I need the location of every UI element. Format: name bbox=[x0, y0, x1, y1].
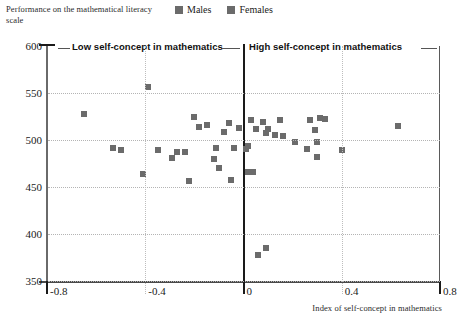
data-point bbox=[277, 117, 283, 123]
x-tick-label: 0.8 bbox=[443, 285, 457, 297]
data-point bbox=[272, 132, 278, 138]
data-point bbox=[110, 145, 116, 151]
x-axis-title: Index of self-concept in mathematics bbox=[312, 303, 442, 313]
data-point bbox=[236, 125, 242, 131]
data-point bbox=[155, 147, 161, 153]
legend-label-males: Males bbox=[187, 4, 211, 15]
x-gridline bbox=[342, 46, 343, 294]
data-point bbox=[216, 165, 222, 171]
data-point bbox=[263, 130, 269, 136]
data-point bbox=[248, 117, 254, 123]
y-gridline bbox=[48, 187, 440, 188]
y-gridline bbox=[48, 281, 440, 282]
data-point bbox=[81, 111, 87, 117]
square-marker-icon bbox=[175, 6, 183, 14]
data-point bbox=[307, 117, 313, 123]
plot-right-border bbox=[439, 46, 440, 281]
data-point bbox=[196, 124, 202, 130]
y-tick-label: 500 bbox=[26, 134, 47, 146]
data-point bbox=[231, 145, 237, 151]
data-point bbox=[280, 133, 286, 139]
plot-top-border bbox=[47, 46, 440, 47]
data-point bbox=[263, 245, 269, 251]
plot-area bbox=[47, 46, 440, 281]
y-gridline bbox=[48, 140, 440, 141]
y-gridline bbox=[48, 93, 440, 94]
data-point bbox=[186, 178, 192, 184]
x-tick-label: 0 bbox=[247, 285, 253, 297]
legend-item-males: Males bbox=[175, 4, 211, 15]
legend-label-females: Females bbox=[239, 4, 272, 15]
data-point bbox=[260, 119, 266, 125]
data-point bbox=[304, 146, 310, 152]
x-gridline bbox=[145, 46, 146, 294]
data-point bbox=[118, 147, 124, 153]
y-tick-label: 600 bbox=[26, 40, 47, 52]
x-tick-label: -0.4 bbox=[148, 285, 165, 297]
y-tick-label: 550 bbox=[26, 87, 47, 99]
data-point bbox=[322, 116, 328, 122]
data-point bbox=[314, 154, 320, 160]
x-axis-right-tick bbox=[439, 281, 441, 294]
x-axis-left-tick bbox=[46, 281, 48, 294]
data-point bbox=[191, 114, 197, 120]
legend-item-females: Females bbox=[227, 4, 272, 15]
x-tick-label: -0.8 bbox=[50, 285, 67, 297]
y-axis-caption: Performance on the mathematical literacy… bbox=[6, 4, 156, 25]
data-point bbox=[228, 177, 234, 183]
data-point bbox=[221, 129, 227, 135]
y-tick-label: 350 bbox=[26, 275, 47, 287]
data-point bbox=[226, 120, 232, 126]
data-point bbox=[169, 155, 175, 161]
data-point bbox=[204, 122, 210, 128]
x-axis-zero-tick bbox=[243, 281, 245, 294]
x-tick-label: 0.4 bbox=[345, 285, 359, 297]
data-point bbox=[253, 126, 259, 132]
data-point bbox=[211, 156, 217, 162]
data-point bbox=[255, 252, 261, 258]
data-point bbox=[213, 145, 219, 151]
data-point bbox=[312, 127, 318, 133]
data-point bbox=[182, 149, 188, 155]
legend: Males Females bbox=[175, 4, 273, 15]
data-point bbox=[250, 169, 256, 175]
y-gridline bbox=[48, 234, 440, 235]
y-tick-label: 400 bbox=[26, 228, 47, 240]
data-point bbox=[243, 146, 249, 152]
square-marker-icon bbox=[227, 6, 235, 14]
y-tick-label: 450 bbox=[26, 181, 47, 193]
data-point bbox=[395, 123, 401, 129]
